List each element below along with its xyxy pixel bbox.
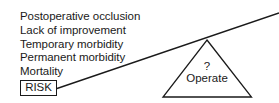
fulcrum-label: Operate bbox=[162, 72, 252, 85]
fulcrum-question-mark: ? bbox=[162, 60, 252, 72]
risk-box-label: RISK bbox=[25, 82, 51, 94]
risk-factor-list: Postoperative occlusion Lack of improvem… bbox=[20, 10, 160, 79]
list-item: Mortality bbox=[20, 65, 160, 79]
list-item: Temporary morbidity bbox=[20, 38, 160, 52]
list-item: Lack of improvement bbox=[20, 24, 160, 38]
list-item: Permanent morbidity bbox=[20, 51, 160, 65]
list-item: Postoperative occlusion bbox=[20, 10, 160, 24]
risk-box: RISK bbox=[20, 80, 57, 96]
risk-balance-figure: Postoperative occlusion Lack of improvem… bbox=[0, 0, 279, 103]
